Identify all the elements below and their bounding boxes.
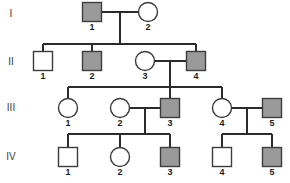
- individual-symbol-ii-1-male-unaffected[interactable]: [34, 52, 53, 71]
- individual-number-iv-1: 1: [65, 167, 70, 177]
- individual-number-iii-3: 3: [167, 118, 172, 128]
- generation-label-i: I: [10, 8, 13, 19]
- individual-number-ii-4: 4: [193, 71, 198, 81]
- generation-label-ii: II: [8, 56, 14, 67]
- individual-number-ii-2: 2: [89, 71, 94, 81]
- individual-number-ii-3: 3: [142, 71, 147, 81]
- pedigree-canvas: 1212341234512345 IIIIIIIV: [0, 0, 290, 183]
- individual-symbol-iii-4-female-unaffected[interactable]: [213, 99, 232, 118]
- individual-number-iv-2: 2: [117, 167, 122, 177]
- individual-number-iii-2: 2: [117, 118, 122, 128]
- generation-label-iii: III: [7, 102, 15, 113]
- connection-lines-layer: [43, 12, 272, 148]
- individual-number-iv-5: 5: [269, 167, 274, 177]
- individual-symbol-iii-3-male-affected[interactable]: [161, 99, 180, 118]
- individual-number-iv-3: 3: [167, 167, 172, 177]
- individual-symbols-layer: [34, 3, 282, 167]
- individual-number-ii-1: 1: [40, 71, 45, 81]
- individual-symbol-iii-1-female-unaffected[interactable]: [59, 99, 78, 118]
- individual-symbol-iv-1-male-unaffected[interactable]: [59, 148, 78, 167]
- pedigree-chart: 1212341234512345 IIIIIIIV: [0, 0, 290, 183]
- individual-symbol-iii-5-male-affected[interactable]: [263, 99, 282, 118]
- individual-number-iii-4: 4: [219, 118, 224, 128]
- individual-symbol-ii-2-male-affected[interactable]: [83, 52, 102, 71]
- individual-symbol-i-1-male-affected[interactable]: [83, 3, 102, 22]
- individual-symbol-iv-4-male-unaffected[interactable]: [213, 148, 232, 167]
- individual-number-iv-4: 4: [219, 167, 224, 177]
- individual-symbol-iv-2-female-unaffected[interactable]: [111, 148, 130, 167]
- generation-labels-layer: IIIIIIIV: [6, 8, 16, 162]
- individual-number-iii-5: 5: [269, 118, 274, 128]
- individual-symbol-ii-3-female-unaffected[interactable]: [136, 52, 155, 71]
- individual-number-i-2: 2: [145, 22, 150, 32]
- individual-number-iii-1: 1: [65, 118, 70, 128]
- individual-symbol-i-2-female-unaffected[interactable]: [139, 3, 158, 22]
- individual-symbol-iii-2-female-unaffected[interactable]: [111, 99, 130, 118]
- individual-symbol-iv-3-male-affected[interactable]: [161, 148, 180, 167]
- individual-number-i-1: 1: [89, 22, 94, 32]
- individual-symbol-ii-4-male-affected[interactable]: [187, 52, 206, 71]
- generation-label-iv: IV: [6, 151, 16, 162]
- individual-symbol-iv-5-male-affected[interactable]: [263, 148, 282, 167]
